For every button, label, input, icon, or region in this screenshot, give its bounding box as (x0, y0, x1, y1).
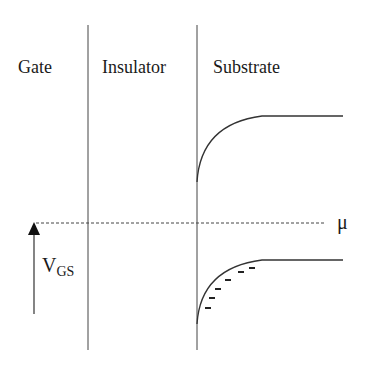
electron-charge (238, 271, 244, 273)
conduction-band-curve (197, 116, 343, 182)
chemical-potential-label: μ (337, 211, 348, 234)
valence-band-curve (197, 260, 343, 324)
region-label-gate: Gate (18, 57, 52, 77)
electron-charge (205, 307, 211, 309)
region-label-insulator: Insulator (102, 57, 166, 77)
region-label-substrate: Substrate (213, 57, 280, 77)
vgs-label-main: V (42, 254, 57, 276)
electron-charge (209, 297, 215, 299)
electron-charge (249, 267, 255, 269)
electron-charge (225, 279, 231, 281)
vgs-label: VGS (42, 254, 74, 279)
vgs-arrow-head-icon (28, 222, 40, 235)
vgs-label-subscript: GS (56, 264, 74, 279)
mos-band-diagram: Gate Insulator Substrate μ VGS (0, 0, 376, 368)
electron-charge (215, 288, 221, 290)
electron-charges (205, 267, 255, 309)
